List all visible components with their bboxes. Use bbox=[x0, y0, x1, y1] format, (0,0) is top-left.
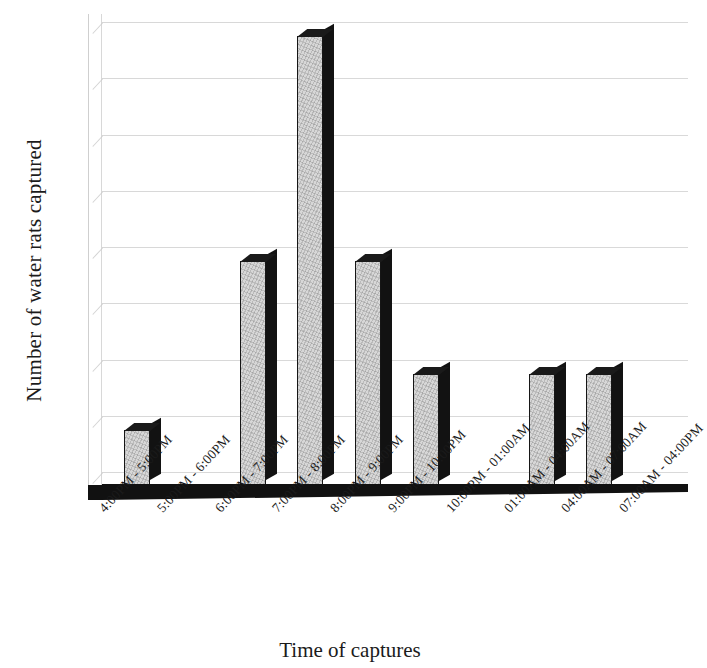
bar-series bbox=[88, 14, 688, 500]
x-axis-title: Time of captures bbox=[0, 638, 700, 663]
bar-side-face bbox=[323, 24, 334, 480]
bar-front-face bbox=[297, 36, 323, 486]
x-axis-tick-labels: 4:00PM - 5:00PM5:00PM - 6:00PM6:00PM - 7… bbox=[88, 505, 688, 623]
bar bbox=[297, 36, 323, 486]
plot-area bbox=[88, 14, 688, 500]
y-axis-title: Number of water rats captured bbox=[22, 51, 47, 491]
